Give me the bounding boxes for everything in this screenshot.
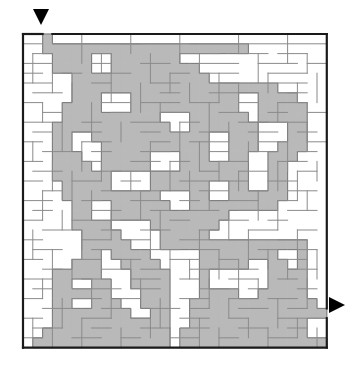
path-cell [199,279,210,290]
path-cell [228,328,239,339]
path-cell [72,220,83,231]
path-cell [91,279,102,290]
path-cell [150,53,161,64]
path-cell [72,151,83,162]
path-cell [297,298,308,309]
path-cell [307,308,318,319]
path-cell [111,210,122,221]
path-cell [81,308,92,319]
path-cell [189,308,200,319]
path-cell [297,337,308,348]
path-cell [91,102,102,113]
path-cell [150,269,161,280]
path-cell [140,200,151,211]
path-cell [287,308,298,319]
path-cell [101,308,112,319]
path-cell [130,279,141,290]
path-cell [179,43,190,54]
path-cell [199,200,210,211]
path-cell [228,337,239,348]
path-cell [219,92,230,103]
path-cell [121,318,131,329]
path-cell [101,141,112,152]
path-cell [111,83,122,94]
path-cell [140,190,151,201]
path-cell [111,63,122,74]
path-cell [160,200,171,211]
path-cell [189,181,200,192]
path-cell [160,230,171,241]
path-cell [101,337,112,348]
path-cell [160,181,171,192]
path-cell [130,328,141,339]
path-cell [268,161,279,172]
path-cell [258,239,269,250]
path-cell [238,151,249,162]
path-cell [32,337,43,348]
path-cell [268,171,279,182]
path-cell [62,63,73,74]
path-cell [238,249,249,260]
path-cell [258,112,269,123]
path-cell [189,210,200,221]
path-cell [62,308,73,319]
path-cell [179,73,190,84]
path-cell [72,92,83,103]
path-cell [160,328,171,339]
path-cell [140,63,151,74]
path-cell [62,279,73,290]
path-cell [52,161,63,172]
path-cell [150,337,161,348]
path-cell [189,83,200,94]
path-cell [121,190,131,201]
path-cell [189,161,200,172]
path-cell [121,308,131,319]
path-cell [111,132,122,143]
path-cell [189,63,200,74]
path-cell [199,220,210,231]
path-cell [170,181,181,192]
path-cell [121,328,131,339]
path-cell [101,151,112,162]
path-cell [170,220,181,231]
path-cell [219,259,230,270]
path-cell [111,337,122,348]
path-cell [81,122,92,133]
path-cell [130,151,141,162]
path-cell [150,73,161,84]
path-cell [228,43,239,54]
path-cell [297,112,308,123]
path-cell [219,102,230,113]
path-cell [179,63,190,74]
path-cell [111,161,122,172]
path-cell [101,279,112,290]
path-cell [52,279,63,290]
path-cell [170,43,181,54]
path-cell [150,298,161,309]
path-cell [121,63,131,74]
path-cell [101,83,112,94]
path-cell [228,151,239,162]
path-cell [111,239,122,250]
path-cell [238,308,249,319]
path-cell [101,132,112,143]
path-cell [160,73,171,84]
path-cell [189,171,200,182]
path-cell [160,171,171,182]
path-cell [170,92,181,103]
path-cell [150,122,161,133]
path-cell [297,141,308,152]
path-cell [130,269,141,280]
path-cell [277,171,288,182]
path-cell [150,318,161,329]
path-cell [277,269,288,280]
path-cell [189,190,200,201]
path-cell [228,308,239,319]
path-cell [209,171,220,182]
path-cell [72,83,83,94]
path-cell [219,161,230,172]
path-cell [189,92,200,103]
path-cell [268,279,279,290]
path-cell [72,112,83,123]
path-cell [258,337,269,348]
